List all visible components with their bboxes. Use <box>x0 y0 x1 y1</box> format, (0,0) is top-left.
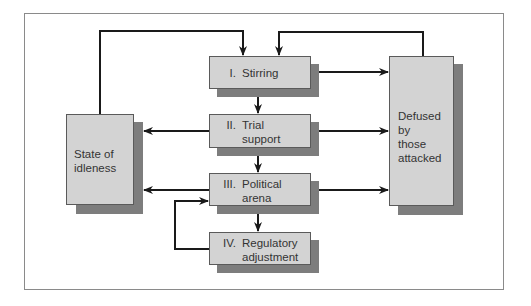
stage-box: I. Stirring <box>209 56 311 89</box>
stage-label: Political arena <box>242 177 282 205</box>
stage-box: II. Trial support <box>209 114 311 148</box>
stage-label: Stirring <box>242 66 278 88</box>
stage-numeral: II. <box>210 118 242 147</box>
stage-label: Regulatory adjustment <box>242 236 298 264</box>
defused-label: Defused by those attacked <box>398 109 441 165</box>
stage-numeral: I. <box>210 66 242 88</box>
stage-box: IV. Regulatory adjustment <box>209 232 311 265</box>
idleness-box: State of idleness <box>66 114 134 205</box>
defused-box: Defused by those attacked <box>389 56 454 206</box>
stage-label: Trial support <box>242 118 280 147</box>
idleness-label: State of idleness <box>74 147 116 175</box>
stage-box: III. Political arena <box>209 173 311 206</box>
stage-numeral: IV. <box>210 236 242 264</box>
stage-numeral: III. <box>210 177 242 205</box>
